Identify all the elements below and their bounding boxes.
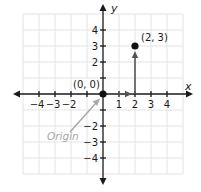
x-tick-neg3: −3 — [46, 99, 61, 110]
point-2-3-label: (2, 3) — [141, 32, 168, 43]
x-tick-labels: −4 −3 −2 1 2 3 4 — [30, 99, 171, 110]
point-2-3 — [131, 42, 138, 49]
x-tick-neg4: −4 — [30, 99, 45, 110]
y-tick-2: 2 — [92, 57, 98, 68]
y-tick-neg2: −2 — [83, 121, 98, 132]
coordinate-plane-diagram: y x −4 −3 −2 1 2 3 4 4 3 2 −2 −3 −4 Orig… — [0, 0, 201, 192]
y-tick-3: 3 — [92, 41, 98, 52]
y-axis-label: y — [110, 2, 118, 15]
y-tick-neg3: −3 — [83, 137, 98, 148]
y-tick-neg4: −4 — [83, 153, 98, 164]
arrowhead-up-icon — [132, 51, 138, 58]
x-tick-3: 3 — [148, 99, 154, 110]
x-axis-label: x — [184, 80, 192, 93]
arrowhead-right-icon — [125, 91, 132, 97]
y-tick-4: 4 — [92, 25, 98, 36]
x-tick-neg2: −2 — [62, 99, 77, 110]
origin-label: Origin — [47, 130, 79, 142]
x-tick-4: 4 — [164, 99, 170, 110]
path-arrows — [105, 51, 138, 97]
point-origin-label: (0, 0) — [73, 79, 100, 90]
point-origin — [99, 90, 106, 97]
x-tick-1: 1 — [116, 99, 122, 110]
x-tick-2: 2 — [132, 99, 138, 110]
coordinate-plane-svg: y x −4 −3 −2 1 2 3 4 4 3 2 −2 −3 −4 Orig… — [0, 0, 201, 192]
